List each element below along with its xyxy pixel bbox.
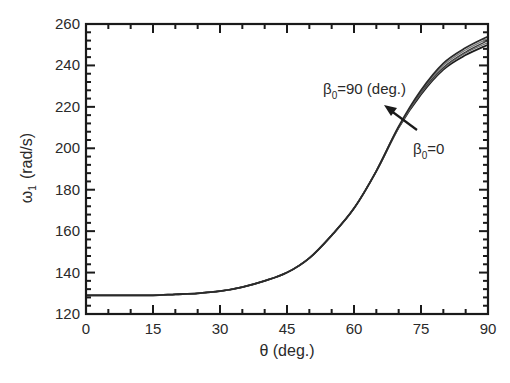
y-tick-label: 120 xyxy=(55,305,80,322)
x-tick-label: 75 xyxy=(413,320,430,337)
data-series xyxy=(86,36,488,295)
y-axis-title: ω1(rad/s) xyxy=(18,133,38,203)
y-tick-label: 140 xyxy=(55,264,80,281)
y-tick-label: 180 xyxy=(55,181,80,198)
arrow-shaft xyxy=(390,110,417,130)
y-tick-label: 220 xyxy=(55,98,80,115)
y-tick-label: 160 xyxy=(55,222,80,239)
annotation-beta-0-rest: =0 xyxy=(427,140,444,157)
annotation-beta-90-symbol: β xyxy=(323,80,332,97)
annotation-beta-0: β0=0 xyxy=(413,140,444,161)
annotation-beta-90: β0=90 (deg.) xyxy=(323,80,406,101)
axis-ticks xyxy=(86,24,488,314)
series-line xyxy=(86,36,488,295)
x-axis-title: θ (deg.) xyxy=(259,342,314,359)
y-axis-title-subscript: 1 xyxy=(27,185,38,191)
x-tick-label: 60 xyxy=(346,320,363,337)
series-line xyxy=(86,41,488,296)
y-axis-title-symbol: ω xyxy=(18,191,35,204)
y-tick-labels: 120140160180200220240260 xyxy=(55,15,80,322)
x-tick-label: 30 xyxy=(212,320,229,337)
x-tick-label: 15 xyxy=(145,320,162,337)
plot-frame xyxy=(86,24,488,314)
x-tick-labels: 0153045607590 xyxy=(82,320,497,337)
x-tick-label: 90 xyxy=(480,320,497,337)
y-axis-title-unit: (rad/s) xyxy=(18,133,35,179)
annotation-beta-90-rest: =90 (deg.) xyxy=(337,80,406,97)
series-line xyxy=(86,39,488,296)
annotation-arrow xyxy=(384,105,417,130)
x-tick-label: 0 xyxy=(82,320,90,337)
annotation-beta-0-symbol: β xyxy=(413,140,422,157)
y-tick-label: 260 xyxy=(55,15,80,32)
x-tick-label: 45 xyxy=(279,320,296,337)
y-tick-label: 200 xyxy=(55,139,80,156)
y-tick-label: 240 xyxy=(55,56,80,73)
chart: 0153045607590 120140160180200220240260 θ… xyxy=(0,0,510,383)
